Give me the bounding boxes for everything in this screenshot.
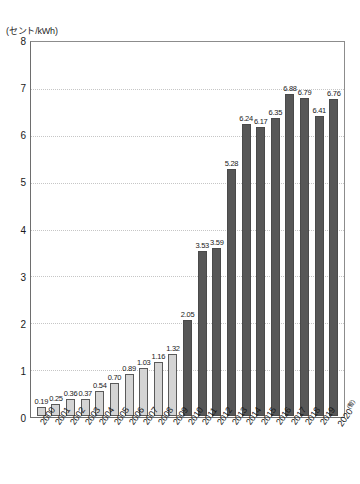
bar-2016 (271, 118, 280, 416)
x-tick-note: (暫) (345, 399, 355, 410)
y-tick-2: 2 (20, 318, 26, 329)
x-slot: 2004 (92, 419, 107, 483)
bar-slot: 6.79 (297, 43, 312, 416)
bar-slot: 6.41 (312, 43, 327, 416)
bar-slot: 2.05 (180, 43, 195, 416)
bar-2014 (242, 124, 251, 417)
x-slot: 2002 (62, 419, 77, 483)
y-tick-4: 4 (20, 224, 26, 235)
x-slot: 2006 (121, 419, 136, 483)
bar-slot: 0.37 (78, 43, 93, 416)
y-axis-tick-labels: 012345678 (0, 0, 30, 484)
x-axis-tick-labels: 2000200120022003200420052006200720082009… (31, 419, 344, 483)
bar-slot: 3.53 (195, 43, 210, 416)
x-slot: 2007 (136, 419, 151, 483)
x-slot: 2011 (195, 419, 210, 483)
bar-value-label: 0.19 (35, 397, 48, 406)
y-tick-0: 0 (20, 413, 26, 424)
plot-area: 0.190.250.360.370.540.700.891.031.161.32… (30, 41, 345, 418)
x-slot: 2014 (239, 419, 254, 483)
bar-value-label: 5.28 (225, 159, 238, 168)
bar-2019 (315, 116, 324, 416)
bar-value-label: 6.88 (283, 84, 296, 93)
bar-2012 (212, 248, 221, 416)
bar-slot: 1.03 (136, 43, 151, 416)
bar-slot: 1.32 (166, 43, 181, 416)
x-slot: 2001 (48, 419, 63, 483)
y-tick-3: 3 (20, 271, 26, 282)
bar-value-label: 0.25 (49, 394, 62, 403)
bar-series: 0.190.250.360.370.540.700.891.031.161.32… (32, 43, 343, 416)
bar-2011 (198, 251, 207, 416)
bar-value-label: 6.24 (239, 114, 252, 123)
x-slot: 2009 (165, 419, 180, 483)
bar-value-label: 3.59 (210, 238, 223, 247)
x-slot: 2012 (210, 419, 225, 483)
bar-value-label: 1.03 (137, 358, 150, 367)
bar-chart: (セント/kWh) 012345678 0.190.250.360.370.54… (0, 0, 360, 484)
bar-value-label: 6.35 (269, 108, 282, 117)
bar-2015 (256, 127, 265, 416)
bar-value-label: 0.89 (122, 364, 135, 373)
x-slot: 2008 (151, 419, 166, 483)
bar-slot: 6.88 (283, 43, 298, 416)
bar-value-label: 0.36 (64, 389, 77, 398)
bar-value-label: 6.17 (254, 117, 267, 126)
bar-value-label: 3.53 (195, 241, 208, 250)
bar-2010 (183, 320, 192, 416)
x-slot: 2019 (313, 419, 328, 483)
y-tick-7: 7 (20, 83, 26, 94)
y-tick-8: 8 (20, 36, 26, 47)
bar-value-label: 6.76 (327, 89, 340, 98)
bar-slot: 0.25 (49, 43, 64, 416)
bar-slot: 0.70 (107, 43, 122, 416)
x-slot: 2013 (224, 419, 239, 483)
bar-slot: 0.19 (34, 43, 49, 416)
x-slot: 2000 (33, 419, 48, 483)
bar-slot: 5.28 (224, 43, 239, 416)
bar-slot: 1.16 (151, 43, 166, 416)
bar-value-label: 6.79 (298, 88, 311, 97)
bar-value-label: 6.41 (312, 106, 325, 115)
bar-value-label: 2.05 (181, 310, 194, 319)
bar-slot: 6.24 (239, 43, 254, 416)
x-slot: 2005 (107, 419, 122, 483)
x-slot: 2015 (254, 419, 269, 483)
bar-value-label: 1.16 (152, 352, 165, 361)
x-slot: 2016 (269, 419, 284, 483)
bar-value-label: 0.37 (78, 389, 91, 398)
bar-slot: 0.36 (63, 43, 78, 416)
bar-slot: 6.17 (253, 43, 268, 416)
bar-value-label: 0.70 (108, 373, 121, 382)
bar-slot: 0.54 (93, 43, 108, 416)
bar-value-label: 0.54 (93, 381, 106, 390)
bar-value-label: 1.32 (166, 344, 179, 353)
bar-2018 (300, 98, 309, 416)
bar-slot: 6.35 (268, 43, 283, 416)
bar-2020 (329, 99, 338, 416)
x-slot: 2003 (77, 419, 92, 483)
bar-slot: 6.76 (327, 43, 342, 416)
x-slot: 2018 (298, 419, 313, 483)
x-slot: 2017 (283, 419, 298, 483)
bar-slot: 3.59 (210, 43, 225, 416)
bar-2013 (227, 169, 236, 417)
x-slot: 2010 (180, 419, 195, 483)
y-tick-6: 6 (20, 130, 26, 141)
bar-slot: 0.89 (122, 43, 137, 416)
bar-2017 (285, 94, 294, 417)
x-slot: 2020(暫) (327, 419, 342, 483)
y-tick-1: 1 (20, 365, 26, 376)
y-tick-5: 5 (20, 177, 26, 188)
